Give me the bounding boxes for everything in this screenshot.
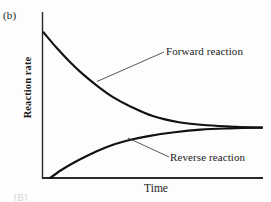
x-axis-label: Time	[118, 182, 194, 194]
leader-line-reverse	[128, 138, 169, 157]
annotation-forward-reaction: Forward reaction	[166, 46, 243, 57]
annotation-reverse-reaction: Reverse reaction	[170, 152, 245, 163]
reaction-rate-chart	[0, 0, 271, 202]
figure-panel: (b) Reaction rate Time Forward reaction …	[0, 0, 271, 202]
y-axis-label: Reaction rate	[22, 40, 33, 136]
page-edge-fragment: [B]	[14, 193, 27, 201]
leader-line-forward	[97, 52, 164, 82]
